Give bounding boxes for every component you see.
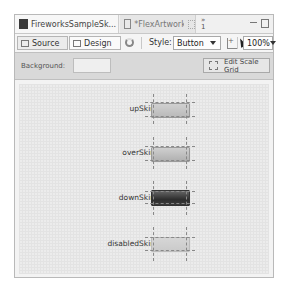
scale-guide — [145, 146, 195, 147]
skin-row-down: downSkin — [19, 181, 269, 211]
toolbar: Source Design Style: Button + 100% — [15, 34, 273, 53]
scale-guide — [145, 160, 195, 161]
document-icon — [19, 19, 28, 29]
zoom-value: 100% — [244, 39, 270, 48]
source-button[interactable]: Source — [17, 36, 68, 50]
separator — [141, 37, 142, 49]
tab-label: *FlexArtwork.css — [134, 20, 184, 29]
maximize-icon[interactable] — [261, 19, 269, 28]
design-label: Design — [84, 39, 115, 48]
skin-label: downSkin — [119, 193, 155, 202]
tab-overflow-button[interactable]: »1 — [201, 17, 205, 31]
skin-row-disabled: disabledSkin — [19, 227, 269, 257]
zoom-select[interactable]: 100% — [243, 36, 273, 50]
scale-guide — [153, 94, 154, 124]
design-canvas[interactable]: upSkin overSkin downSkin disable — [19, 84, 269, 274]
state-icon[interactable] — [205, 38, 215, 48]
scale-guide — [153, 227, 154, 261]
scale-guide — [145, 237, 195, 238]
scale-guide — [153, 137, 154, 169]
design-button[interactable]: Design — [69, 36, 121, 50]
css-file-icon — [124, 19, 131, 29]
edit-scale-grid-label: Edit Scale Grid — [224, 58, 269, 74]
refresh-icon[interactable] — [125, 38, 134, 47]
tab-label: FireworksSampleSk... — [31, 20, 116, 29]
source-label: Source — [32, 39, 62, 48]
scale-guide — [145, 102, 195, 103]
scale-guide — [145, 250, 195, 251]
skin-row-over: overSkin — [19, 137, 269, 167]
close-icon[interactable] — [188, 20, 195, 29]
style-label: Style: — [149, 38, 172, 47]
scale-guide — [145, 191, 195, 192]
skin-label: disabledSkin — [107, 239, 155, 248]
scale-guide — [186, 94, 187, 124]
background-color-input[interactable] — [73, 58, 111, 73]
background-label: Background: — [21, 62, 65, 70]
edit-scale-grid-button[interactable]: Edit Scale Grid — [203, 58, 270, 73]
window-controls — [250, 19, 269, 28]
tab-bar: FireworksSampleSk... *FlexArtwork.css »1 — [15, 15, 273, 34]
scale-grid-icon — [209, 61, 218, 70]
chevron-down-icon — [270, 41, 276, 45]
design-icon — [73, 40, 81, 47]
scale-guide — [153, 181, 154, 215]
tab-flex-artwork-css[interactable]: *FlexArtwork.css — [120, 15, 196, 33]
scale-guide — [186, 181, 187, 215]
scale-guide — [186, 227, 187, 261]
background-bar: Background: Edit Scale Grid — [15, 53, 273, 80]
code-icon — [21, 40, 29, 47]
editor-panel: FireworksSampleSk... *FlexArtwork.css »1… — [14, 14, 274, 278]
scale-guide — [186, 137, 187, 169]
scale-guide — [145, 116, 195, 117]
tab-fireworks-sample[interactable]: FireworksSampleSk... — [15, 15, 119, 33]
skin-row-up: upSkin — [19, 94, 269, 124]
minimize-icon[interactable] — [250, 19, 257, 23]
scale-guide — [145, 203, 195, 204]
